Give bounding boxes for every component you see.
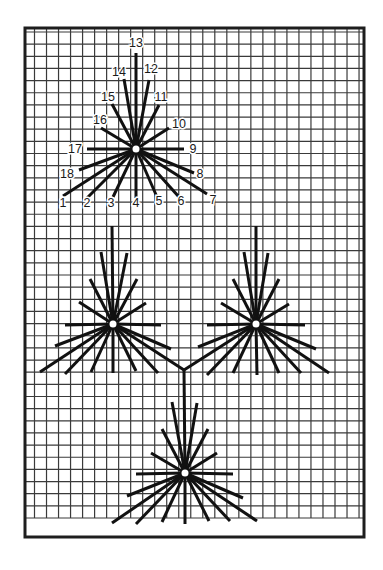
ray-9 xyxy=(113,324,161,325)
ray-13 xyxy=(184,370,185,473)
ray-17 xyxy=(136,473,185,474)
ray-label-13: 13 xyxy=(129,36,143,50)
ray-label-6: 6 xyxy=(178,194,185,208)
star-hub xyxy=(133,146,140,153)
star-ray-diagram: 123456789101112131415161718 xyxy=(0,0,383,570)
ray-4 xyxy=(256,324,257,375)
ray-label-15: 15 xyxy=(101,90,115,104)
ray-label-17: 17 xyxy=(68,142,82,156)
ray-label-10: 10 xyxy=(172,117,186,131)
ray-17 xyxy=(207,324,256,325)
ray-label-4: 4 xyxy=(133,196,140,210)
ray-label-1: 1 xyxy=(60,196,67,210)
ray-17 xyxy=(65,324,113,325)
ray-label-8: 8 xyxy=(197,167,204,181)
star-hub xyxy=(182,470,189,477)
star-hub xyxy=(253,321,260,328)
ray-label-11: 11 xyxy=(155,90,168,104)
ray-13 xyxy=(112,226,113,324)
ray-9 xyxy=(185,473,233,474)
ray-label-16: 16 xyxy=(93,113,107,127)
star-hub xyxy=(110,321,117,328)
ray-label-7: 7 xyxy=(210,193,217,207)
ray-label-12: 12 xyxy=(144,62,158,76)
ray-label-14: 14 xyxy=(112,65,126,79)
ray-label-9: 9 xyxy=(190,142,197,156)
ray-9 xyxy=(256,324,305,325)
ray-label-18: 18 xyxy=(60,167,74,181)
ray-label-2: 2 xyxy=(84,196,91,210)
ray-label-3: 3 xyxy=(108,196,115,210)
ray-label-5: 5 xyxy=(156,194,163,208)
